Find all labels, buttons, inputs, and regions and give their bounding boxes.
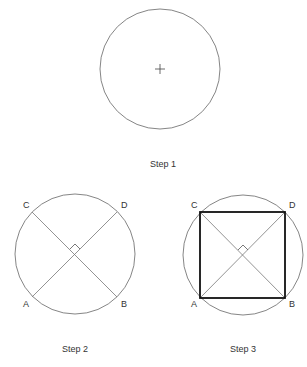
step1-caption: Step 1 [150,159,176,169]
point-b: B [289,299,295,309]
point-a: A [191,299,197,309]
construction-diagram: Step 1 C D A B Step 2 C D A B Step 3 [0,0,307,367]
step-1: Step 1 [100,9,220,169]
step3-caption: Step 3 [230,344,256,354]
step-3: C D A B Step 3 [183,195,303,354]
point-b: B [121,299,127,309]
point-d: D [289,200,296,210]
point-c: C [191,200,198,210]
step-2: C D A B Step 2 [15,194,135,354]
point-d: D [121,200,128,210]
point-c: C [23,200,30,210]
center-mark-icon [155,64,165,74]
step2-caption: Step 2 [62,344,88,354]
point-a: A [23,299,29,309]
right-angle-icon [238,245,248,250]
right-angle-icon [70,244,80,249]
